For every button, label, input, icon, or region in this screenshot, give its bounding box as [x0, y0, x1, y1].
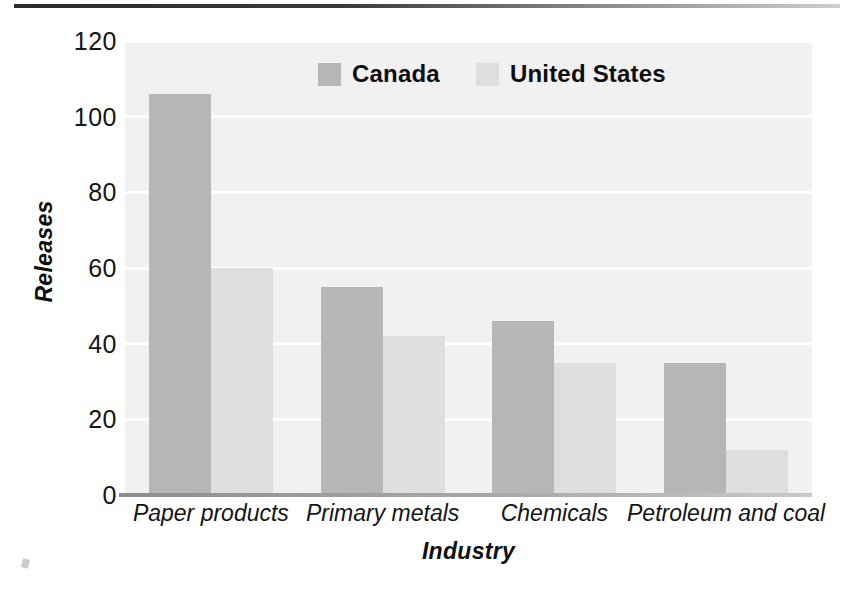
x-tick-label: Chemicals — [501, 500, 608, 527]
bar-canada-primary-metals — [321, 287, 383, 495]
x-tick-label: Paper products — [133, 500, 289, 527]
page-scan-artifact — [21, 558, 30, 568]
y-tick-label: 100 — [74, 102, 117, 131]
y-tick-label: 80 — [88, 178, 117, 207]
bar-united-states-primary-metals — [383, 336, 445, 495]
legend-item-united-states: United States — [476, 60, 666, 88]
bar-series-group — [125, 41, 812, 495]
bar-united-states-paper-products — [211, 268, 273, 495]
page-top-rule — [14, 4, 840, 8]
legend-swatch-canada — [318, 63, 341, 86]
legend-label: United States — [510, 60, 666, 88]
x-axis-line — [119, 493, 812, 497]
y-tick-label: 0 — [103, 481, 117, 510]
x-axis-title: Industry — [125, 538, 812, 565]
x-axis-tick-labels: Paper productsPrimary metalsChemicalsPet… — [125, 500, 812, 534]
legend-label: Canada — [352, 60, 440, 88]
y-axis-tick-labels: 020406080100120 — [55, 41, 117, 495]
y-tick-label: 60 — [88, 254, 117, 283]
bar-united-states-petroleum-and-coal — [726, 450, 788, 495]
plot-area — [125, 41, 812, 495]
legend-swatch-united-states — [476, 63, 499, 86]
y-axis-title: Releases — [31, 182, 58, 322]
bar-canada-chemicals — [492, 321, 554, 495]
bar-canada-paper-products — [149, 94, 211, 495]
bar-united-states-chemicals — [554, 363, 616, 495]
x-tick-label: Primary metals — [306, 500, 459, 527]
bar-canada-petroleum-and-coal — [664, 363, 726, 495]
y-tick-label: 40 — [88, 329, 117, 358]
y-tick-label: 20 — [88, 405, 117, 434]
grouped-bar-chart: 020406080100120 Releases Paper productsP… — [0, 0, 854, 593]
legend-item-canada: Canada — [318, 60, 440, 88]
y-tick-label: 120 — [74, 27, 117, 56]
x-tick-label: Petroleum and coal — [627, 500, 825, 527]
legend: CanadaUnited States — [318, 60, 666, 88]
